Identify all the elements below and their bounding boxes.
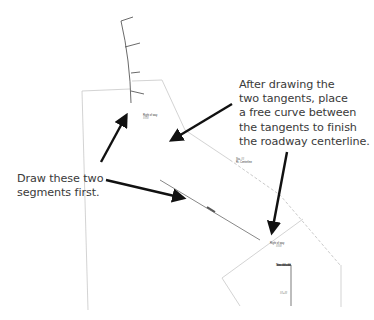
station-mid-label: ##+##	[280, 291, 288, 295]
roadway-drawing-canvas: Right of way #### Sta. ## Rt. Centerline…	[0, 0, 374, 320]
mid-note-sublabel: Rt. Centerline	[236, 160, 252, 164]
arrow-to-tangent-segment	[106, 180, 183, 198]
lower-parcel-sublabel: ####	[276, 244, 282, 248]
callout-segments-instruction: Draw these two segments first.	[17, 172, 103, 200]
arrow-to-upper-segment	[101, 116, 126, 162]
callout-tangent-curve-instruction: After drawing the two tangents, place a …	[239, 78, 370, 149]
centerline-curve-upper	[121, 17, 144, 103]
property-boundary-dashed	[230, 160, 340, 265]
arrow-to-lower-segment	[272, 152, 287, 232]
property-boundary-lower	[185, 130, 341, 307]
tangent-segment	[160, 180, 260, 240]
station-line-lower	[277, 265, 291, 306]
upper-parcel-sublabel: ####	[143, 116, 149, 120]
